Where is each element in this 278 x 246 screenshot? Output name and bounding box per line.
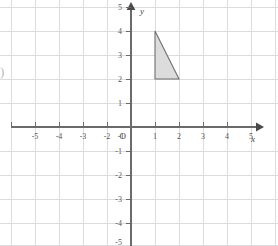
x-tick-label: -4 [56, 132, 63, 141]
x-tick-label: -2 [104, 132, 111, 141]
y-tick-label: -5 [115, 238, 122, 246]
y-tick-label: 1 [118, 99, 122, 108]
margin-paren-glyph: ) [0, 64, 4, 79]
coordinate-plane-svg: -5 -4 -3 -2 -1 1 2 3 4 5 5 4 3 2 1 -1 -2… [0, 0, 278, 246]
x-tick-label: 3 [201, 132, 205, 141]
figure-background [0, 0, 278, 246]
x-tick-label: 2 [177, 132, 181, 141]
origin-label: O [120, 131, 127, 141]
y-tick-label: 4 [118, 27, 122, 36]
y-tick-label: -1 [115, 147, 122, 156]
y-axis-label: y [139, 6, 144, 16]
x-tick-label: 4 [225, 132, 229, 141]
y-tick-label: -3 [115, 195, 122, 204]
y-tick-label: 5 [118, 3, 122, 12]
x-tick-label: -3 [80, 132, 87, 141]
x-axis-label: x [250, 134, 255, 144]
y-tick-label: -4 [115, 219, 122, 228]
y-tick-label: 3 [118, 51, 122, 60]
coordinate-plane-figure: -5 -4 -3 -2 -1 1 2 3 4 5 5 4 3 2 1 -1 -2… [0, 0, 278, 246]
x-tick-label: -5 [32, 132, 39, 141]
y-tick-label: -2 [115, 171, 122, 180]
y-tick-label: 2 [118, 75, 122, 84]
x-tick-label: 1 [153, 132, 157, 141]
